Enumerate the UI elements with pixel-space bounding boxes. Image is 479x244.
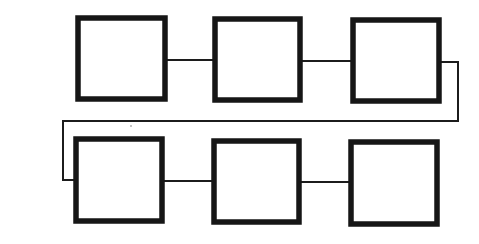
scan-speck — [130, 125, 132, 127]
box-2 — [215, 19, 300, 100]
box-3 — [353, 20, 439, 101]
box-6 — [351, 142, 437, 224]
box-5 — [214, 141, 299, 222]
box-4 — [76, 139, 162, 221]
chain-diagram — [0, 0, 479, 244]
box-1 — [78, 18, 165, 99]
